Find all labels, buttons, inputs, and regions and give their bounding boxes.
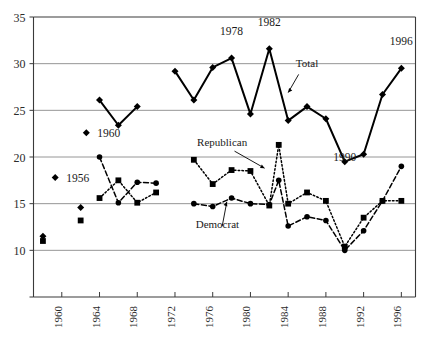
- series-point-republican-1964: [97, 195, 103, 201]
- series-point-democrat-1974: [191, 201, 197, 207]
- series-point-democrat-1982: [267, 202, 273, 208]
- series-point-republican-1978: [229, 167, 235, 173]
- annotation-democrat: Democrat: [196, 218, 239, 230]
- series-point-republican-1984: [285, 201, 291, 207]
- series-point-republican-1976: [210, 181, 216, 187]
- y-tick-label-20: 20: [14, 151, 26, 165]
- annotation-1978: 1978: [220, 25, 243, 37]
- series-point-republican-1968: [134, 200, 140, 206]
- annotation-republican: Republican: [197, 136, 248, 148]
- series-point-democrat-1988: [323, 218, 329, 224]
- x-tick-label-1988: 1988: [316, 306, 328, 329]
- series-point-republican-1958: [40, 238, 46, 244]
- legend-label-1960: 1960: [97, 127, 120, 139]
- x-tick-label-1984: 1984: [278, 306, 290, 329]
- y-tick-label-35: 35: [14, 11, 26, 25]
- annotation-total: Total: [296, 57, 318, 69]
- y-tick-label-15: 15: [14, 197, 26, 211]
- y-tick-label-30: 30: [14, 57, 26, 71]
- series-point-republican-1980: [248, 168, 254, 174]
- series-point-democrat-1990: [342, 248, 348, 254]
- x-tick-label-1960: 1960: [52, 306, 64, 329]
- x-tick-label-1972: 1972: [165, 306, 177, 328]
- annotation-1996: 1996: [390, 35, 413, 47]
- bond-ratings-line-chart: 101520253035 196019641968197219761980198…: [0, 0, 423, 357]
- x-tick-label-1968: 1968: [127, 306, 139, 329]
- x-tick-label-1980: 1980: [240, 306, 252, 329]
- series-point-democrat-1983: [276, 178, 282, 184]
- series-point-democrat-1970: [153, 180, 159, 186]
- legend-label-1956: 1956: [66, 172, 89, 184]
- annotation-1982: 1982: [258, 16, 281, 28]
- series-point-democrat-1968: [134, 179, 140, 185]
- series-point-republican-1996: [398, 198, 404, 204]
- series-point-republican-1962: [78, 218, 84, 224]
- series-point-republican-1966: [115, 177, 121, 183]
- y-tick-label-10: 10: [14, 244, 26, 258]
- series-point-democrat-1978: [229, 195, 235, 201]
- y-tick-label-25: 25: [14, 104, 26, 118]
- series-point-republican-1992: [361, 215, 367, 221]
- series-point-democrat-1992: [361, 228, 367, 234]
- chart-container: 101520253035 196019641968197219761980198…: [0, 0, 423, 357]
- series-point-democrat-1980: [248, 201, 254, 207]
- x-tick-label-1996: 1996: [391, 306, 403, 329]
- series-point-democrat-1996: [399, 164, 405, 170]
- series-point-republican-1970: [153, 190, 159, 196]
- x-tick-label-1976: 1976: [203, 306, 215, 329]
- series-point-democrat-1966: [116, 200, 122, 206]
- x-tick-label-1964: 1964: [90, 306, 102, 329]
- chart-background: [0, 0, 423, 357]
- annotation-1990: 1990: [333, 151, 356, 163]
- series-point-republican-1974: [191, 157, 197, 163]
- x-tick-label-1992: 1992: [354, 306, 366, 328]
- series-point-democrat-1986: [304, 214, 310, 220]
- series-point-democrat-1994: [380, 198, 386, 204]
- series-point-democrat-1976: [210, 204, 216, 210]
- series-point-republican-1983: [276, 142, 282, 148]
- series-point-republican-1988: [323, 198, 329, 204]
- series-point-republican-1986: [304, 190, 310, 196]
- series-point-democrat-1984: [285, 223, 291, 229]
- series-point-democrat-1964: [97, 154, 103, 160]
